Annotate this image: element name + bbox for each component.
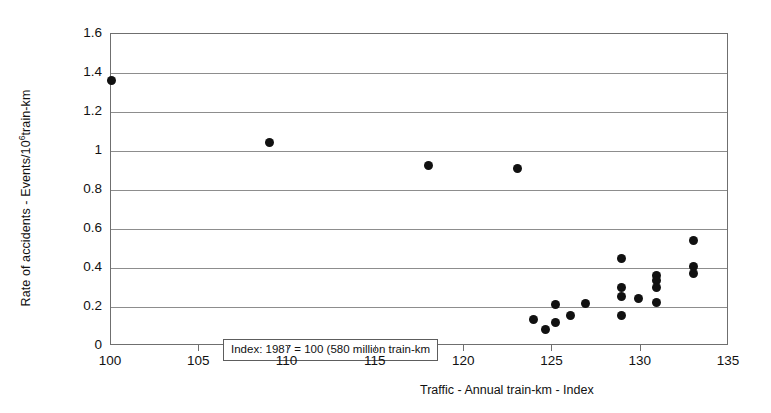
gridline — [111, 190, 727, 191]
scatter-chart-figure: Rate of accidents - Events/106train-km 0… — [0, 0, 771, 413]
y-axis-title: Rate of accidents - Events/106train-km — [13, 33, 39, 363]
data-point — [617, 311, 626, 320]
gridline — [111, 268, 727, 269]
y-axis-title-tail: train-km — [19, 90, 33, 136]
y-tick-label: 0.6 — [46, 221, 102, 235]
data-point — [551, 300, 560, 309]
x-tick-mark — [287, 345, 288, 351]
gridline — [111, 229, 727, 230]
data-point — [617, 254, 626, 263]
data-point — [551, 318, 560, 327]
data-point — [265, 138, 274, 147]
gridline — [111, 151, 727, 152]
data-point — [689, 269, 698, 278]
data-point — [689, 236, 698, 245]
x-tick-label: 100 — [80, 353, 140, 368]
y-tick-label: 1.6 — [46, 26, 102, 40]
x-tick-mark — [198, 345, 199, 351]
y-tick-label: 0.4 — [46, 260, 102, 274]
data-point — [107, 76, 116, 85]
x-tick-label: 115 — [345, 353, 405, 368]
gridline — [111, 112, 727, 113]
y-tick-label: 0.2 — [46, 299, 102, 313]
gridline — [111, 73, 727, 74]
x-tick-label: 120 — [433, 353, 493, 368]
x-tick-label: 125 — [521, 353, 581, 368]
data-point — [634, 294, 643, 303]
x-tick-label: 110 — [257, 353, 317, 368]
y-axis-title-exponent: 6 — [17, 135, 27, 140]
plot-area: Index: 1987 = 100 (580 million train-km — [110, 33, 728, 345]
x-axis-title: Traffic - Annual train-km - Index — [420, 383, 750, 397]
y-tick-label: 1.4 — [46, 65, 102, 79]
x-tick-label: 135 — [698, 353, 758, 368]
data-point — [652, 298, 661, 307]
y-axis-title-main: Rate of accidents - Events/10 — [19, 140, 33, 306]
x-tick-label: 130 — [610, 353, 670, 368]
y-tick-label: 1 — [46, 143, 102, 157]
data-point — [424, 161, 433, 170]
data-point — [513, 164, 522, 173]
y-tick-label: 0.8 — [46, 182, 102, 196]
gridline — [111, 307, 727, 308]
x-tick-mark — [375, 345, 376, 351]
index-annotation-box: Index: 1987 = 100 (580 million train-km — [223, 339, 438, 361]
data-point — [617, 292, 626, 301]
x-tick-mark — [551, 345, 552, 351]
y-tick-label: 0 — [46, 338, 102, 352]
data-point — [529, 315, 538, 324]
y-tick-label: 1.2 — [46, 104, 102, 118]
x-tick-label: 105 — [168, 353, 228, 368]
data-point — [617, 283, 626, 292]
data-point — [652, 283, 661, 292]
data-point — [541, 325, 550, 334]
data-point — [566, 311, 575, 320]
x-tick-mark — [463, 345, 464, 351]
x-tick-mark — [640, 345, 641, 351]
